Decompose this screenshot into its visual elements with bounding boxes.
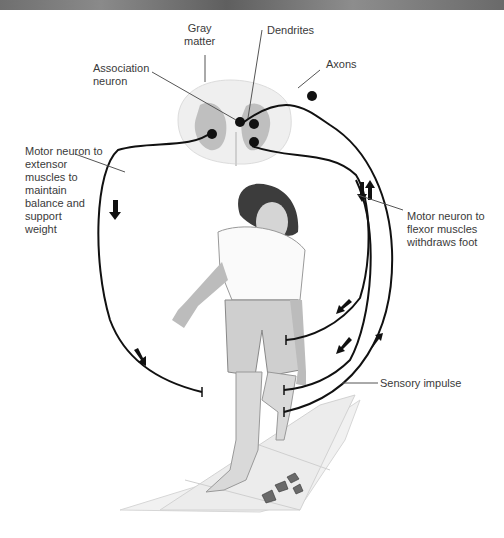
arrow-down-icon — [109, 200, 121, 220]
label-axons: Axons — [326, 58, 357, 71]
label-association-neuron: Association neuron — [93, 62, 149, 88]
label-gray-matter: Gray matter — [184, 22, 215, 48]
label-sensory-impulse: Sensory impulse — [380, 377, 461, 390]
label-motor-neuron-flexor: Motor neuron to flexor muscles withdraws… — [407, 210, 485, 249]
label-motor-neuron-extensor: Motor neuron to extensor muscles to main… — [25, 145, 103, 236]
reflex-arc-illustration — [0, 0, 504, 538]
arrow-up-icon — [370, 333, 383, 350]
arrow-down-icon — [336, 337, 352, 354]
left-arm — [172, 262, 228, 328]
shirt — [218, 227, 305, 300]
arrow-up-icon — [365, 180, 375, 200]
shorts — [225, 300, 300, 376]
arrow-down-icon — [336, 299, 352, 314]
label-dendrites: Dendrites — [267, 24, 314, 37]
extensor-motor-pathway — [98, 132, 212, 392]
spinal-cord-cross-section — [178, 80, 291, 166]
